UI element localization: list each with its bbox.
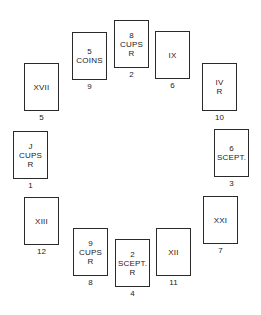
card-label-line: R xyxy=(129,49,135,58)
position-number: 6 xyxy=(155,81,190,90)
card-position-12: XIII xyxy=(24,197,59,245)
card-label-line: 2 xyxy=(130,250,135,259)
card-label-line: SCEPT. xyxy=(118,259,147,268)
card-label-line: XVII xyxy=(34,83,50,92)
card-position-8: 9CUPSR xyxy=(73,228,108,276)
position-number: 5 xyxy=(24,113,59,122)
card-label-line: IX xyxy=(169,51,177,60)
card-position-4: 2SCEPT.R xyxy=(115,239,150,287)
card-label-line: IV xyxy=(216,78,224,87)
position-number: 4 xyxy=(115,289,150,298)
card-label-line: CUPS xyxy=(79,248,102,257)
card-label-line: SCEPT. xyxy=(217,153,246,162)
card-label-line: R xyxy=(28,160,34,169)
position-number: 12 xyxy=(24,247,59,256)
card-label-line: CUPS xyxy=(120,40,143,49)
card-label-line: CUPS xyxy=(19,151,42,160)
card-position-3: 6SCEPT. xyxy=(214,129,249,177)
position-number: 9 xyxy=(72,82,107,91)
card-position-9: 5COINS xyxy=(72,32,107,80)
position-number: 11 xyxy=(156,278,191,287)
card-position-7: XXI xyxy=(203,196,238,244)
card-position-5: XVII xyxy=(24,63,59,111)
card-label-line: 9 xyxy=(88,239,93,248)
position-number: 10 xyxy=(202,113,237,122)
position-number: 2 xyxy=(114,70,149,79)
card-label-line: COINS xyxy=(76,56,102,65)
position-number: 8 xyxy=(73,278,108,287)
card-position-2: 8CUPSR xyxy=(114,20,149,68)
card-position-1: JCUPSR xyxy=(13,131,48,179)
card-label-line: R xyxy=(88,257,94,266)
position-number: 1 xyxy=(13,181,48,190)
card-label-line: XIII xyxy=(35,217,48,226)
card-label-line: XII xyxy=(168,248,178,257)
card-position-11: XII xyxy=(156,228,191,276)
card-label-line: R xyxy=(217,87,223,96)
card-label-line: 5 xyxy=(87,47,92,56)
card-label-line: J xyxy=(28,142,32,151)
card-label-line: XXI xyxy=(214,216,228,225)
card-position-6: IX xyxy=(155,31,190,79)
card-position-10: IVR xyxy=(202,63,237,111)
position-number: 3 xyxy=(214,179,249,188)
card-label-line: R xyxy=(130,268,136,277)
card-label-line: 8 xyxy=(129,31,134,40)
position-number: 7 xyxy=(203,246,238,255)
card-label-line: 6 xyxy=(229,144,234,153)
